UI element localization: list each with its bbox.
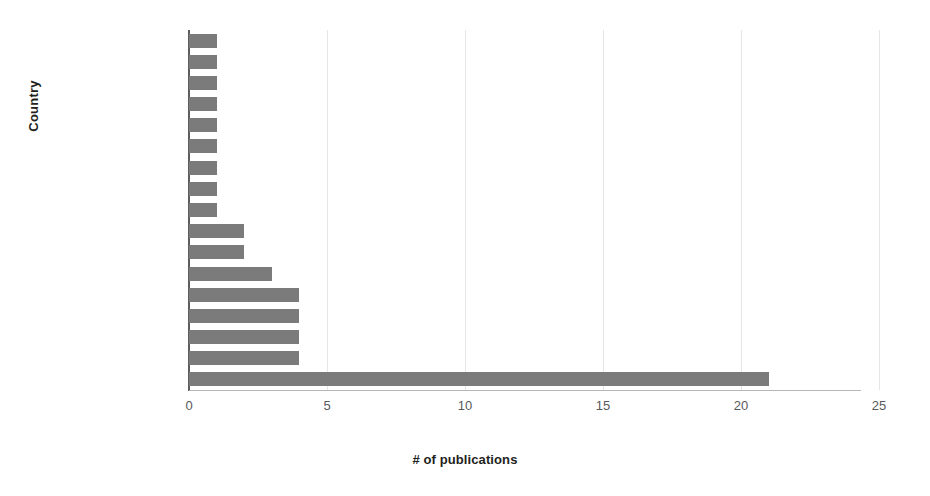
bar-chart: Country N/AGreeceHong KongJapanNew Zeala… (0, 0, 930, 496)
bar (189, 118, 217, 132)
y-axis-title: Country (26, 26, 50, 186)
bar (189, 161, 217, 175)
gridline-25 (879, 30, 880, 390)
bar-row: Spain (189, 157, 789, 178)
bar (189, 267, 272, 281)
bar-row: Hong Kong (189, 72, 789, 93)
bar (189, 34, 217, 48)
bar-row: Greece (189, 51, 789, 72)
bar-row: UK (189, 348, 789, 369)
bar (189, 182, 217, 196)
bar-row: Australia (189, 284, 789, 305)
bar (189, 139, 217, 153)
bar-row: U.S (189, 369, 789, 390)
x-tick-label: 15 (573, 398, 633, 413)
x-tick-label: 10 (435, 398, 495, 413)
bar (189, 330, 299, 344)
bar (189, 97, 217, 111)
bar-row: Germany (189, 263, 789, 284)
x-tick-label: 25 (849, 398, 909, 413)
x-tick-label: 20 (711, 398, 771, 413)
bar-row: Japan (189, 94, 789, 115)
bar-row: N/A (189, 30, 789, 51)
bar (189, 288, 299, 302)
bar (189, 76, 217, 90)
bar (189, 351, 299, 365)
x-tick-label: 0 (159, 398, 219, 413)
bar (189, 224, 244, 238)
x-axis-title: # of publications (0, 452, 930, 467)
bar (189, 309, 299, 323)
bar (189, 245, 244, 259)
bar-row: Portugal (189, 136, 789, 157)
bar (189, 203, 217, 217)
bar (189, 372, 769, 386)
plot-area: N/AGreeceHong KongJapanNew ZealandPortug… (189, 30, 789, 390)
bar (189, 55, 217, 69)
bar-row: Brazil (189, 199, 789, 220)
bar-row: Canada (189, 305, 789, 326)
bar-row: New Zealand (189, 115, 789, 136)
x-axis-line (189, 390, 861, 391)
bar-row: Italy (189, 326, 789, 347)
x-tick-label: 5 (297, 398, 357, 413)
bar-row: Netherlands (189, 242, 789, 263)
bar-row: France (189, 221, 789, 242)
bar-row: Switzerland (189, 178, 789, 199)
